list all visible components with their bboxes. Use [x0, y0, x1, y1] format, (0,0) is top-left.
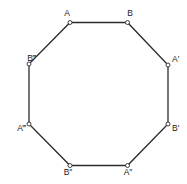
- vertex-label-b1: B′: [172, 123, 180, 133]
- vertex-point-a: [68, 21, 72, 25]
- vertex-label-a1: A′: [172, 54, 180, 64]
- vertex-label-b2: B″: [64, 167, 73, 177]
- vertex-point-b: [126, 21, 130, 25]
- vertex-point-a3: [27, 122, 31, 126]
- octagon-diagram: ABA′B′A″B″A‴B‴: [0, 0, 187, 184]
- label-group: ABA′B′A″B″A‴B‴: [17, 8, 179, 177]
- vertex-label-b: B: [127, 8, 133, 18]
- vertex-label-a2: A″: [124, 167, 133, 177]
- vertex-point-a1: [166, 63, 170, 67]
- vertex-label-a3: A‴: [17, 123, 26, 133]
- vertex-group: [27, 21, 170, 168]
- vertex-label-a: A: [64, 8, 70, 18]
- vertex-point-b1: [166, 122, 170, 126]
- vertex-label-b3: B‴: [27, 53, 36, 63]
- octagon-outline: [29, 23, 168, 166]
